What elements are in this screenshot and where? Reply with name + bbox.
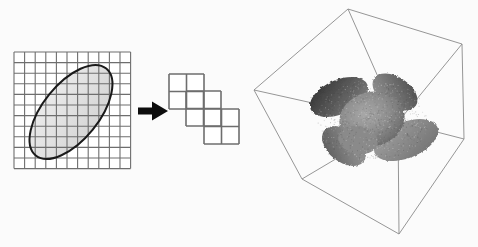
star-texture-dot [336,145,337,146]
star-texture-dot [321,110,322,111]
star-texture-dot [330,109,331,110]
star-texture-dot [337,123,338,124]
star-texture-dot [385,144,386,145]
star-texture-dot [337,135,338,136]
star-texture-dot [420,127,421,128]
star-texture-dot [326,114,327,115]
star-texture-dot [425,129,426,130]
star-texture-dot [367,97,368,98]
star-texture-dot [417,137,418,138]
star-texture-dot [358,88,359,89]
star-texture-dot [402,139,403,140]
star-texture-dot [408,139,409,140]
star-texture-dot [366,112,367,113]
star-texture-dot [392,109,393,110]
star-texture-dot [405,133,406,134]
star-texture-dot [372,119,373,120]
star-texture-dot [378,104,379,105]
star-texture-dot [366,151,367,152]
star-texture-dot [372,129,373,130]
star-texture-dot [393,144,394,145]
star-texture-dot [383,124,384,125]
star-texture-dot [363,149,364,150]
star-texture-dot [394,102,395,103]
star-texture-dot [374,96,375,97]
star-texture-dot [359,86,360,87]
star-texture-dot [400,125,401,126]
star-texture-dot [395,136,396,137]
star-texture-dot [413,97,414,98]
star-texture-dot [420,128,421,129]
star-texture-dot [364,93,365,94]
star-texture-dot [345,85,346,86]
star-texture-dot [415,127,416,128]
star-texture-dot [335,128,336,129]
star-texture-dot [348,112,349,113]
star-texture-dot [335,101,336,102]
star-texture-dot [343,123,344,124]
star-texture-dot [343,121,344,122]
star-texture-dot [366,139,367,140]
star-texture-dot [379,97,380,98]
star-texture-dot [412,95,413,96]
star-texture-dot [358,101,359,102]
star-texture-dot [401,104,402,105]
star-texture-dot [329,143,330,144]
star-texture-dot [396,100,397,101]
star-texture-dot [348,123,349,124]
star-texture-dot [357,122,358,123]
star-texture-dot [384,104,385,105]
star-texture-dot [351,91,352,92]
star-texture-dot [369,106,370,107]
star-texture-dot [398,155,399,156]
star-texture-dot [334,148,335,149]
star-texture-dot [364,125,365,126]
star-texture-dot [355,86,356,87]
star-texture-dot [365,118,366,119]
star-texture-dot [411,99,412,100]
star-texture-dot [360,159,361,160]
star-texture-dot [381,154,382,155]
star-texture-dot [367,129,368,130]
star-texture-dot [379,132,380,133]
star-texture-dot [394,120,395,121]
star-texture-dot [394,128,395,129]
star-texture-dot [363,83,364,84]
star-texture-dot [357,102,358,103]
star-texture-dot [397,115,398,116]
star-texture-dot [353,141,354,142]
star-texture-dot [400,99,401,100]
star-texture-dot [413,100,414,101]
star-texture-dot [378,125,379,126]
star-texture-dot [325,131,326,132]
star-texture-dot [362,158,363,159]
star-texture-dot [378,128,379,129]
star-texture-dot [364,110,365,111]
star-texture-dot [418,127,419,128]
star-texture-dot [410,114,411,115]
star-texture-dot [360,115,361,116]
star-texture-dot [362,147,363,148]
star-texture-dot [361,154,362,155]
star-texture-dot [339,141,340,142]
star-texture-dot [373,156,374,157]
star-texture-dot [327,115,328,116]
star-texture-dot [366,96,367,97]
star-texture-dot [331,101,332,102]
star-texture-dot [329,107,330,108]
star-texture-dot [330,122,331,123]
star-texture-dot [386,128,387,129]
star-texture-dot [380,147,381,148]
star-texture-dot [401,91,402,92]
star-texture-dot [394,111,395,112]
star-texture-dot [357,110,358,111]
star-texture-dot [422,110,423,111]
star-texture-dot [347,92,348,93]
star-texture-dot [377,148,378,149]
star-texture-dot [326,140,327,141]
star-texture-dot [362,109,363,110]
star-texture-dot [364,131,365,132]
star-texture-dot [340,87,341,88]
star-texture-dot [345,150,346,151]
star-texture-dot [353,84,354,85]
